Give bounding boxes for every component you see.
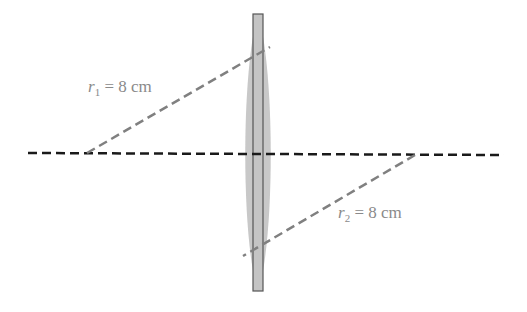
r1-text: = 8 cm [100,77,152,96]
diagram-canvas [0,0,527,312]
r1-label: r1 = 8 cm [88,77,152,98]
r2-label: r2 = 8 cm [338,203,402,224]
r2-text: = 8 cm [350,203,402,222]
lens-diagram: r1 = 8 cm r2 = 8 cm [0,0,527,312]
r2-var: r [338,203,345,222]
r1-var: r [88,77,95,96]
radius-line-r1 [87,47,270,153]
